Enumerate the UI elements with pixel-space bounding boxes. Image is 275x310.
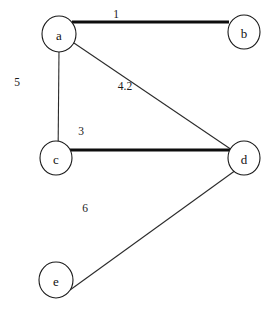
node-circle-icon-b[interactable] [228,15,260,49]
graph-node-c[interactable]: c [40,141,72,175]
nodes-layer: abcde [39,15,260,298]
graph-diagram-canvas: abcde 154.236 [0,0,275,310]
node-circle-icon-d[interactable] [228,141,260,175]
edge-a-d-weight-label: 4.2 [118,80,133,92]
node-circle-icon-c[interactable] [40,141,72,175]
graph-svg-root: abcde 154.236 [0,0,275,310]
edges-layer [58,22,236,290]
graph-node-b[interactable]: b [228,15,260,49]
edge-c-d-weight-label: 3 [78,125,84,137]
edge-a-d[interactable] [71,41,232,150]
graph-node-e[interactable]: e [39,262,73,298]
node-circle-icon-e[interactable] [39,262,73,298]
edge-a-b-weight-label: 1 [113,8,119,20]
graph-node-a[interactable]: a [42,16,76,52]
edge-e-d[interactable] [70,170,236,290]
node-circle-icon-a[interactable] [42,16,76,52]
graph-node-d[interactable]: d [228,141,260,175]
edge-e-d-weight-label: 6 [82,202,88,214]
edge-a-c-weight-label: 5 [14,76,20,88]
